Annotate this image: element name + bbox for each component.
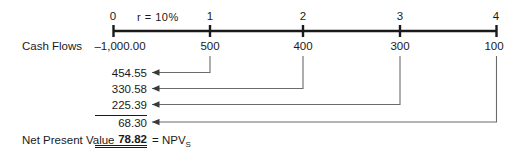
cash-flow-value-period-2: 400 [293,40,312,52]
npv-equation: = NPVS [152,134,191,151]
present-value-period-2: 330.58 [95,83,147,95]
leader-line-period-1 [152,56,210,73]
cash-flow-value-period-1: 500 [200,40,219,52]
present-value-period-4: 68.30 [95,115,147,129]
net-present-value-amount: 78.82 [95,133,147,148]
cash-flow-value-period-0: –1,000.00 [94,40,145,52]
cash-flows-row-label: Cash Flows [22,40,82,52]
present-value-period-1: 454.55 [95,67,147,79]
npv-subscript: S [186,140,191,149]
npv-timeline-figure: 0 1 2 3 4 r = 10% Cash Flows –1,000.00 5… [0,0,519,152]
discount-rate-note: r = 10% [137,11,179,23]
timeline-graphics [0,0,519,152]
npv-symbol: NPV [162,134,186,146]
period-label-0: 0 [110,10,116,22]
npv-equals-sign: = [152,134,159,146]
present-value-period-3: 225.39 [95,99,147,111]
cash-flow-value-period-4: 100 [484,40,503,52]
period-label-2: 2 [300,10,306,22]
cash-flow-value-period-3: 300 [390,40,409,52]
period-label-3: 3 [397,10,403,22]
period-label-4: 4 [493,10,499,22]
period-label-1: 1 [207,10,213,22]
leader-line-period-3 [152,56,400,105]
